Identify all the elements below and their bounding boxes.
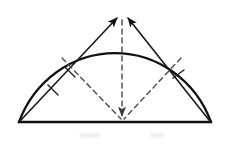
scan-smudge-right [150,133,164,138]
right-chord-arrow [128,18,209,120]
figure-canvas [0,0,228,144]
semicircle-arc [19,53,211,122]
scan-smudge-left [80,133,100,138]
left-chord-arrow [21,18,117,120]
semicircle-diagram [0,0,228,144]
dashed-radius-right [124,58,181,119]
dashed-radius-left [62,58,121,119]
